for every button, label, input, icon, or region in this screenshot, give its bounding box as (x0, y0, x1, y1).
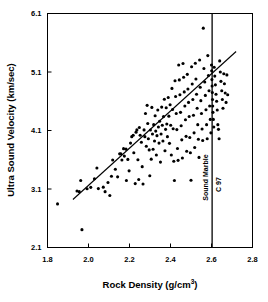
data-point (165, 106, 168, 109)
data-point (219, 70, 222, 73)
data-point (213, 75, 216, 78)
data-point (216, 108, 219, 111)
data-point (202, 27, 205, 30)
data-point (182, 76, 185, 79)
y-tick-label: 4.1 (31, 126, 41, 135)
data-point (136, 158, 139, 161)
data-point (180, 124, 183, 127)
data-point (163, 98, 166, 101)
data-point (95, 167, 98, 170)
data-point (202, 67, 205, 70)
data-point (155, 154, 158, 157)
c97-label: C 97 (215, 177, 222, 192)
data-point (215, 100, 218, 103)
data-point (157, 125, 160, 128)
data-point (206, 137, 209, 140)
x-tick-label: 1.8 (42, 255, 52, 264)
data-point (196, 107, 199, 110)
data-point (223, 82, 226, 85)
y-tick-label: 3.1 (31, 185, 41, 194)
data-point (175, 128, 178, 131)
data-point (154, 130, 157, 133)
data-point (197, 156, 200, 159)
data-point (146, 122, 149, 125)
data-point (137, 178, 140, 181)
data-point (154, 114, 157, 117)
x-axis-tick-labels: 1.82.02.22.42.62.8 (42, 255, 257, 264)
data-point (216, 123, 219, 126)
data-point (167, 96, 170, 99)
x-tick-label: 2.8 (247, 255, 257, 264)
y-axis-title: Ultra Sound Velocity (km/sec) (5, 63, 16, 197)
data-point (194, 77, 197, 80)
plot-canvas: 2.13.14.15.16.1 1.82.02.22.42.62.8 Sound… (0, 0, 268, 302)
data-point (225, 101, 228, 104)
data-point (193, 146, 196, 149)
data-point (150, 106, 153, 109)
data-point (106, 181, 109, 184)
x-tick-label: 2.4 (165, 255, 176, 264)
data-point (114, 168, 117, 171)
data-point (147, 137, 150, 140)
data-point (199, 99, 202, 102)
data-point (174, 95, 177, 98)
data-point (152, 148, 155, 151)
data-point (140, 141, 143, 144)
data-point (186, 73, 189, 76)
data-point (196, 123, 199, 126)
data-point (197, 138, 200, 141)
data-point (220, 89, 223, 92)
data-point (163, 149, 166, 152)
data-point (185, 135, 188, 138)
data-point (198, 58, 201, 61)
data-point (159, 161, 162, 164)
x-tick-label: 2.6 (206, 255, 216, 264)
data-point (79, 179, 82, 182)
data-point (201, 139, 204, 142)
data-point (132, 151, 135, 154)
data-point (214, 83, 217, 86)
x-axis-title-base: Rock Density (g/cm (103, 279, 191, 290)
data-point (221, 98, 224, 101)
data-point (173, 79, 176, 82)
data-point (192, 114, 195, 117)
y-axis-ticks (48, 14, 52, 248)
data-point (123, 155, 126, 158)
data-point (204, 94, 207, 97)
data-point (144, 112, 147, 115)
data-point (153, 139, 156, 142)
data-point (200, 112, 203, 115)
data-point (183, 104, 186, 107)
data-point (97, 187, 100, 190)
data-point (222, 72, 225, 75)
data-point (161, 139, 164, 142)
data-point (180, 138, 183, 141)
data-point (176, 147, 179, 150)
data-point (165, 123, 168, 126)
data-point (201, 127, 204, 130)
data-point (225, 73, 228, 76)
data-point (166, 135, 169, 138)
data-point (206, 54, 209, 57)
data-point (199, 86, 202, 89)
data-point (218, 59, 221, 62)
data-point (138, 126, 141, 129)
data-point (135, 128, 138, 131)
data-point (141, 165, 144, 168)
data-point (177, 159, 180, 162)
x-tick-label: 2.2 (124, 255, 134, 264)
data-point (139, 134, 142, 137)
data-point (134, 182, 137, 185)
data-point (226, 93, 229, 96)
data-point (179, 111, 182, 114)
x-axis-title: Rock Density (g/cm3) (103, 278, 198, 290)
data-point (104, 190, 107, 193)
y-tick-label: 5.1 (31, 68, 41, 77)
data-point (148, 174, 151, 177)
data-point (184, 118, 187, 121)
x-axis-ticks (48, 244, 253, 248)
sound-marble-label: Sound Marble (202, 154, 209, 200)
data-point (80, 228, 83, 231)
data-point (204, 108, 207, 111)
data-point (168, 142, 171, 145)
